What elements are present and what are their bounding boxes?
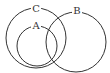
circle-c [6, 8, 66, 68]
venn-diagram: C B A [0, 0, 110, 73]
label-b: B [73, 5, 80, 16]
circle-b [46, 12, 106, 72]
label-a: A [31, 20, 40, 31]
label-c: C [32, 3, 40, 14]
